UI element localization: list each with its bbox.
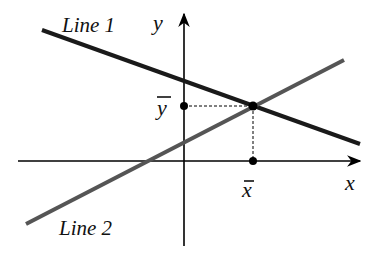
line-1-label: Line 1 <box>61 13 115 37</box>
line-1 <box>42 30 360 144</box>
y-bar-label: y <box>155 95 171 120</box>
x-bar-point <box>249 157 257 165</box>
svg-text:x: x <box>241 177 252 202</box>
line-2 <box>26 60 344 224</box>
line-2-label: Line 2 <box>58 216 113 240</box>
y-bar-point <box>180 102 188 110</box>
intersection-point <box>249 102 258 111</box>
x-axis-label: x <box>344 170 355 195</box>
x-bar-label: x <box>241 177 254 202</box>
regression-lines-diagram: Line 1 Line 2 y x y x <box>0 0 379 261</box>
svg-text:y: y <box>155 95 167 120</box>
y-axis-label: y <box>151 10 163 35</box>
